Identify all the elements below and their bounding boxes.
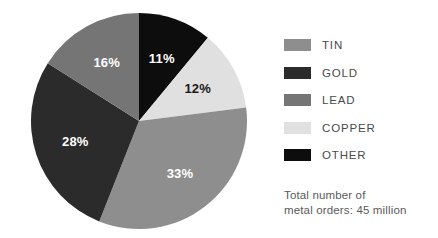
pie-chart-figure: 11%12%33%28%16% TIN GOLD LEAD COPPER OTH… (0, 0, 438, 238)
legend-item-gold[interactable]: GOLD (284, 66, 434, 80)
legend-swatch-copper (284, 122, 311, 134)
legend-swatch-lead (284, 94, 311, 106)
legend-label-gold: GOLD (322, 67, 358, 79)
pie-slice-label-tin: 33% (167, 166, 194, 181)
pie-chart-svg: 11%12%33%28%16% (30, 12, 248, 230)
pie-slice-label-copper: 12% (184, 81, 211, 96)
legend-label-tin: TIN (322, 39, 343, 51)
chart-footnote: Total number of metal orders: 45 million (284, 188, 436, 218)
legend-swatch-tin (284, 39, 311, 51)
pie-slice-label-gold: 28% (62, 134, 89, 149)
legend-label-copper: COPPER (322, 122, 376, 134)
legend: TIN GOLD LEAD COPPER OTHER (284, 38, 434, 176)
legend-item-other[interactable]: OTHER (284, 148, 434, 162)
legend-item-copper[interactable]: COPPER (284, 121, 434, 135)
legend-swatch-other (284, 149, 311, 161)
footnote-line-2: metal orders: 45 million (284, 203, 436, 218)
pie-chart: 11%12%33%28%16% (30, 12, 248, 230)
pie-slice-label-lead: 16% (93, 55, 120, 70)
legend-item-tin[interactable]: TIN (284, 38, 434, 52)
legend-swatch-gold (284, 67, 311, 79)
footnote-line-1: Total number of (284, 188, 436, 203)
pie-slices (31, 13, 247, 229)
legend-item-lead[interactable]: LEAD (284, 93, 434, 107)
pie-slice-label-other: 11% (149, 51, 175, 66)
legend-label-lead: LEAD (322, 94, 355, 106)
legend-label-other: OTHER (322, 149, 367, 161)
